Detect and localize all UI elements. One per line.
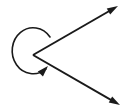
angle-diagram-figure bbox=[0, 0, 125, 110]
angle-diagram-canvas bbox=[0, 0, 125, 110]
diagram-background bbox=[0, 0, 125, 110]
